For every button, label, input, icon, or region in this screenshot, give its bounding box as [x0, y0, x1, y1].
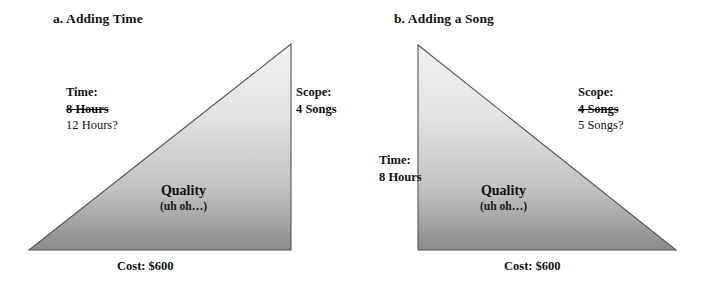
- panel-a-scope-label: Scope: 4 Songs: [296, 84, 337, 117]
- triangle-shape-b: [418, 45, 676, 250]
- quality-heading: Quality: [480, 182, 527, 199]
- panel-adding-time: a. Adding Time Time: 8 Hours 12 Hours?: [0, 0, 353, 285]
- panel-b-cost-label: Cost: $600: [504, 258, 561, 275]
- quality-heading: Quality: [160, 182, 207, 199]
- panel-a-triangle: [0, 0, 353, 285]
- quality-note: (uh oh…): [480, 199, 527, 214]
- time-old-value: 8 Hours: [66, 101, 118, 118]
- time-heading: Time:: [379, 152, 422, 169]
- panel-b-time-label: Time: 8 Hours: [379, 152, 422, 185]
- panel-a-time-label: Time: 8 Hours 12 Hours?: [66, 84, 118, 134]
- scope-value: 4 Songs: [296, 101, 337, 118]
- panel-a-cost-label: Cost: $600: [117, 258, 174, 275]
- scope-heading: Scope:: [578, 84, 624, 101]
- scope-heading: Scope:: [296, 84, 337, 101]
- cost-value: Cost: $600: [117, 259, 174, 273]
- panel-b-quality-label: Quality (uh oh…): [480, 182, 527, 214]
- time-value: 8 Hours: [379, 169, 422, 186]
- quality-note: (uh oh…): [160, 199, 207, 214]
- panel-b-triangle: [354, 0, 707, 285]
- cost-value: Cost: $600: [504, 259, 561, 273]
- iron-triangle-figure: a. Adding Time Time: 8 Hours 12 Hours?: [0, 0, 707, 285]
- scope-new-value: 5 Songs?: [578, 117, 624, 134]
- panel-a-quality-label: Quality (uh oh…): [160, 182, 207, 214]
- panel-adding-a-song: b. Adding a Song Scope: 4 Songs 5 Songs?: [354, 0, 707, 285]
- panel-b-scope-label: Scope: 4 Songs 5 Songs?: [578, 84, 624, 134]
- time-new-value: 12 Hours?: [66, 117, 118, 134]
- triangle-shape-a: [29, 44, 291, 250]
- time-heading: Time:: [66, 84, 118, 101]
- scope-old-value: 4 Songs: [578, 101, 624, 118]
